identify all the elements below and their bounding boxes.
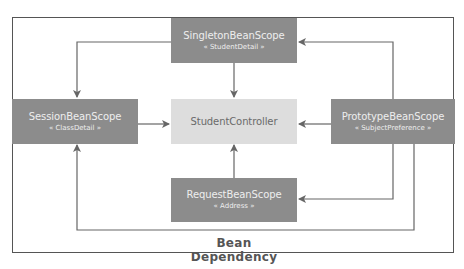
diagram-caption: Bean Dependency (171, 236, 297, 264)
singleton-bean-scope-name: SingletonBeanScope (183, 29, 284, 42)
request-bean-scope-stereotype: « Address » (214, 201, 255, 212)
prototype-bean-scope-stereotype: « SubjectPreference » (355, 123, 432, 134)
session-bean-scope-box: SessionBeanScope « ClassDetail » (12, 99, 138, 144)
student-controller-box: StudentController (171, 99, 297, 144)
edge-singleton-to-session (77, 42, 171, 97)
request-bean-scope-box: RequestBeanScope « Address » (171, 178, 297, 222)
prototype-bean-scope-box: PrototypeBeanScope « SubjectPreference » (331, 99, 455, 144)
student-controller-name: StudentController (191, 115, 278, 128)
prototype-bean-scope-name: PrototypeBeanScope (342, 110, 444, 123)
session-bean-scope-stereotype: « ClassDetail » (49, 123, 101, 134)
request-bean-scope-name: RequestBeanScope (187, 188, 282, 201)
edge-prototype-to-request (299, 144, 393, 199)
edge-prototype-to-singleton (299, 42, 393, 99)
singleton-bean-scope-box: SingletonBeanScope « StudentDetail » (171, 18, 297, 63)
session-bean-scope-name: SessionBeanScope (29, 110, 122, 123)
singleton-bean-scope-stereotype: « StudentDetail » (203, 42, 264, 53)
